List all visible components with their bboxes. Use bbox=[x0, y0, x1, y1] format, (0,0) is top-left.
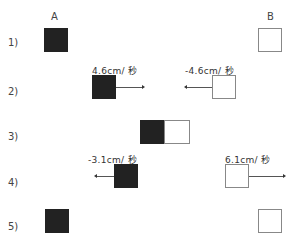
block-a-label: A bbox=[51, 11, 58, 22]
row-label-4: 4) bbox=[8, 177, 18, 188]
row-label-2: 2) bbox=[8, 86, 18, 97]
block-b-row2 bbox=[212, 75, 236, 99]
arrow-left-icon bbox=[186, 87, 212, 88]
row-label-5: 5) bbox=[8, 221, 18, 232]
arrow-right-icon bbox=[249, 176, 284, 177]
block-b-row5 bbox=[258, 209, 282, 233]
arrow-right-icon bbox=[116, 87, 143, 88]
block-a-row2 bbox=[92, 75, 116, 99]
block-b-row1 bbox=[258, 28, 282, 52]
block-a-row1 bbox=[44, 28, 68, 52]
block-a-row5 bbox=[45, 209, 69, 233]
row-label-3: 3) bbox=[8, 131, 18, 142]
block-b-label: B bbox=[267, 11, 274, 22]
row-label-1: 1) bbox=[8, 37, 18, 48]
block-a-row3 bbox=[140, 120, 164, 144]
block-b-row4 bbox=[225, 164, 249, 188]
block-b-row3 bbox=[164, 120, 190, 144]
block-a-row4 bbox=[114, 164, 138, 188]
arrow-left-icon bbox=[96, 176, 114, 177]
